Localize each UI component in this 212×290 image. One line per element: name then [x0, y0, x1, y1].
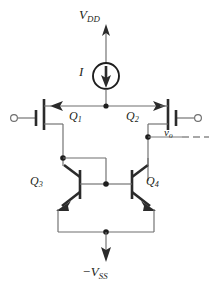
- q4-emitter-slant: [132, 192, 150, 206]
- q3-collector-slant: [64, 165, 80, 177]
- label-output-vo: vo: [164, 127, 173, 138]
- label-vss: −VSS: [82, 265, 108, 278]
- current-source-symbol: [93, 63, 119, 106]
- q3-emitter-slant: [62, 192, 80, 206]
- top-rail: [50, 101, 166, 111]
- input-terminal-left-circle[interactable]: [11, 115, 18, 122]
- label-current-source: I: [79, 65, 83, 78]
- label-vdd: VDD: [79, 8, 100, 21]
- mosfet-q2-symbol: [148, 99, 201, 181]
- schematic-canvas: [0, 0, 212, 290]
- label-q4: Q4: [146, 175, 159, 187]
- base-common-node-dot: [103, 181, 109, 187]
- supply-bottom-branch: [58, 229, 154, 262]
- circuit-diagram: VDD I Q1 Q2 vo Q3 Q4 −VSS: [0, 0, 212, 290]
- input-terminal-right-circle[interactable]: [195, 115, 202, 122]
- top-rail-node-dot: [103, 103, 108, 108]
- label-q1: Q1: [69, 110, 82, 122]
- label-q3: Q3: [30, 175, 43, 187]
- supply-top-branch: [102, 24, 110, 63]
- bjt-q3-symbol: [56, 155, 106, 232]
- output-branch: [145, 134, 209, 140]
- label-q2: Q2: [126, 110, 139, 122]
